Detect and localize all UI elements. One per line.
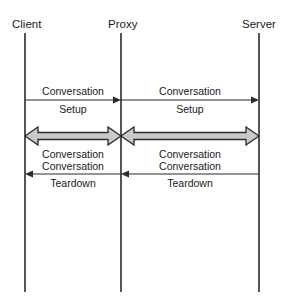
message-setup-proxy-server: Conversation Setup <box>121 85 259 115</box>
message-label-line1: Conversation <box>42 85 104 97</box>
block-double-arrow-icon <box>121 127 259 145</box>
message-label-line2: Setup <box>176 103 204 115</box>
lifeline-label-proxy: Proxy <box>108 18 138 30</box>
message-label-line1: Conversation <box>159 160 221 172</box>
block-double-arrow-icon <box>25 127 121 145</box>
message-teardown-proxy-client: Conversation Teardown <box>25 160 121 189</box>
message-teardown-server-proxy: Conversation Teardown <box>121 160 259 189</box>
message-label-line1: Conversation <box>159 85 221 97</box>
message-label-line1: Conversation <box>42 160 104 172</box>
lifeline-label-client: Client <box>12 18 42 30</box>
arrow-head-left-icon <box>25 171 33 178</box>
arrow-head-left-icon <box>121 171 129 178</box>
lifeline-label-server: Server <box>242 18 276 30</box>
arrow-head-right-icon <box>251 97 259 104</box>
message-label-line2: Setup <box>59 103 87 115</box>
message-label-line1: Conversation <box>159 148 221 160</box>
sequence-diagram: Client Proxy Server Conversation Setup C… <box>0 0 284 306</box>
message-conversation-proxy-server: Conversation <box>121 127 259 160</box>
message-setup-client-proxy: Conversation Setup <box>25 85 121 115</box>
message-label-line1: Conversation <box>42 148 104 160</box>
message-label-line2: Teardown <box>50 177 96 189</box>
diagram-canvas: Client Proxy Server Conversation Setup C… <box>0 0 284 306</box>
message-conversation-client-proxy: Conversation <box>25 127 121 160</box>
message-label-line2: Teardown <box>167 177 213 189</box>
arrow-head-right-icon <box>113 97 121 104</box>
